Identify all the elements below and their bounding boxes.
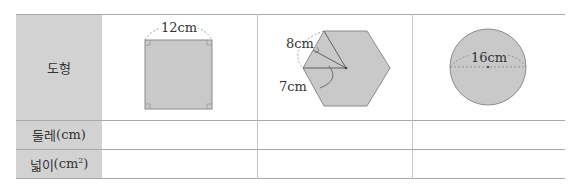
figures-layer: 12cm 8cm 7cm 16cm [0,0,577,191]
hexagon-apothem-label: 7cm [279,79,307,94]
square-figure: 12cm [145,19,212,109]
hexagon-figure: 8cm 7cm [279,31,390,106]
hexagon-side-label: 8cm [286,36,314,51]
circle-figure: 16cm [450,29,526,105]
circle-diameter-label: 16cm [471,50,507,65]
square-side-label: 12cm [161,20,197,35]
